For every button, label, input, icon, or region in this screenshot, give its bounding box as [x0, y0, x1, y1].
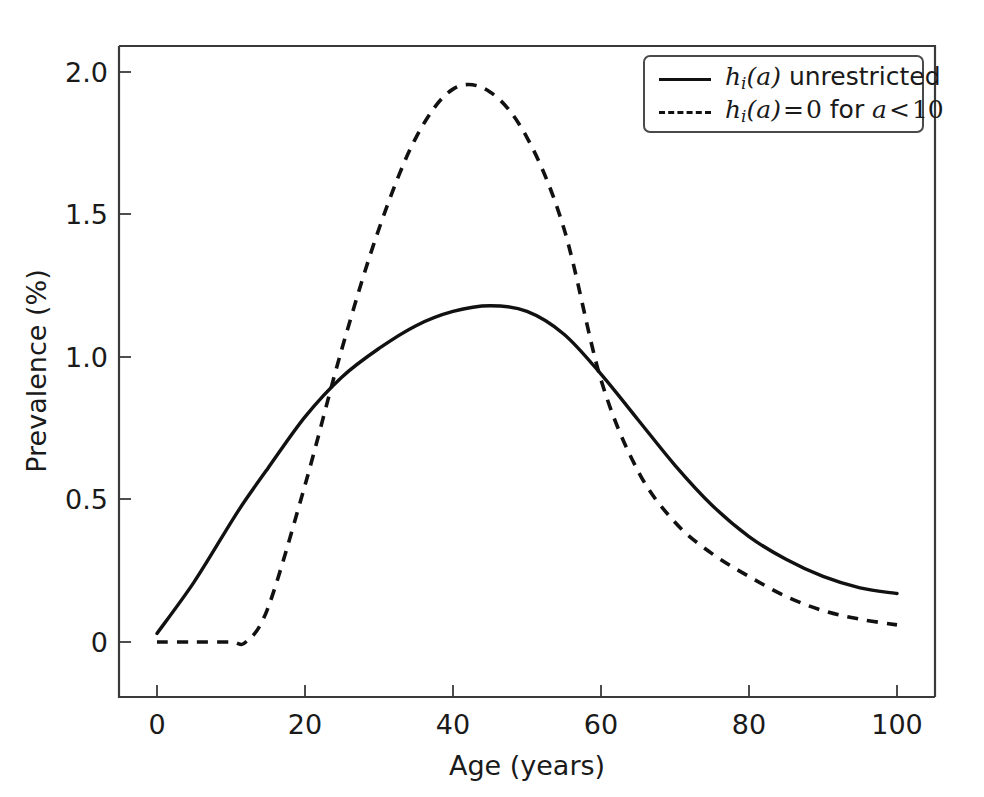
y-axis-title: Prevalence (%)	[21, 269, 52, 472]
legend-math-h2: h	[725, 95, 741, 124]
x-axis-ticks	[157, 685, 897, 697]
legend-math-lessthan: <	[887, 95, 912, 124]
legend-label-restricted: hi(a)=0 for a<10	[725, 97, 944, 125]
y-tick-labels: 0 0.5 1.0 1.5 2.0	[65, 57, 108, 658]
legend-item-restricted: hi(a)=0 for a<10	[655, 95, 912, 126]
y-tick-label: 1.5	[65, 199, 108, 230]
dashed-line-swatch	[655, 101, 717, 121]
x-tick-label: 40	[436, 709, 470, 740]
legend-text-for: for	[830, 95, 864, 124]
x-tick-label: 100	[871, 709, 923, 740]
x-axis-title: Age (years)	[449, 750, 605, 781]
x-tick-labels: 0 20 40 60 80 100	[148, 709, 922, 740]
legend-math-var-a: a	[872, 95, 887, 124]
legend-math-arg2: (a)	[747, 95, 781, 124]
legend-math-equals: =	[781, 95, 806, 124]
y-tick-label: 1.0	[65, 342, 108, 373]
x-tick-label: 0	[148, 709, 165, 740]
chart-figure: 0 0.5 1.0 1.5 2.0 0 20 40 60 80 100 Age …	[0, 0, 984, 797]
y-tick-label: 2.0	[65, 57, 108, 88]
axis-spines	[119, 46, 935, 697]
axis-frame-top-right	[119, 46, 935, 697]
legend-math-threshold: 10	[912, 95, 944, 124]
y-tick-label: 0.5	[65, 484, 108, 515]
series-line-unrestricted	[157, 306, 897, 634]
x-tick-label: 80	[732, 709, 766, 740]
y-axis-ticks	[119, 72, 131, 642]
y-tick-label: 0	[91, 627, 108, 658]
legend-text-unrestricted: unrestricted	[789, 62, 941, 91]
x-tick-label: 60	[584, 709, 618, 740]
legend-label-unrestricted: hi(a) unrestricted	[725, 64, 941, 92]
chart-legend: hi(a) unrestricted hi(a)=0 for a<10	[643, 55, 924, 133]
legend-math-h: h	[725, 62, 741, 91]
solid-line-swatch	[655, 68, 717, 88]
legend-math-zero: 0	[806, 95, 822, 124]
legend-item-unrestricted: hi(a) unrestricted	[655, 62, 912, 93]
legend-math-arg: (a)	[747, 62, 781, 91]
x-tick-label: 20	[288, 709, 322, 740]
